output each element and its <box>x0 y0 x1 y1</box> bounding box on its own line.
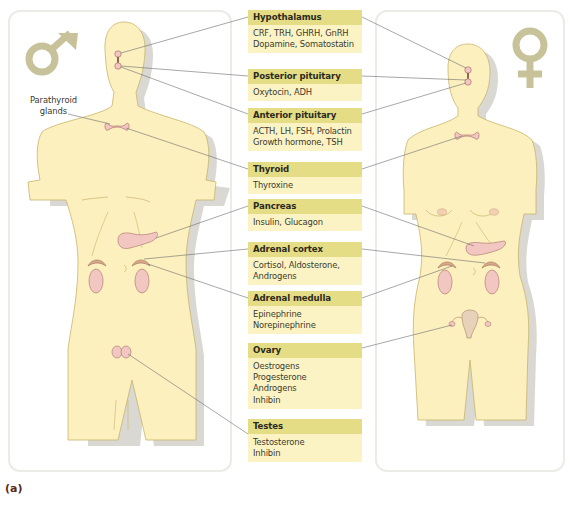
male-hypothalamus <box>115 51 121 57</box>
figure-tag: (a) <box>5 482 22 495</box>
label-adrenal-medulla: Adrenal medulla Epinephrine Norepinephri… <box>248 291 362 334</box>
hormone-text: Dopamine, Somatostatin <box>253 39 357 50</box>
label-title: Testes <box>248 419 362 434</box>
female-ovary-right <box>485 322 491 327</box>
parathyroid-label-line1: Parathyroid <box>30 95 77 106</box>
hormone-text: ACTH, LH, FSH, Prolactin <box>253 126 357 137</box>
hormone-text: Insulin, Glucagon <box>253 217 357 228</box>
hormone-text: Growth hormone, TSH <box>253 137 357 148</box>
label-title: Ovary <box>248 343 362 358</box>
hormone-text: Testosterone <box>253 437 357 448</box>
label-title: Hypothalamus <box>248 10 362 25</box>
female-kidney-right <box>485 270 499 294</box>
label-posterior-pituitary: Posterior pituitary Oxytocin, ADH <box>248 69 362 101</box>
female-symbol-icon <box>516 31 544 88</box>
hormone-text: Oxytocin, ADH <box>253 87 357 98</box>
hormone-text: Androgens <box>253 271 357 282</box>
male-figure <box>28 22 230 446</box>
hormone-text: Inhibin <box>253 395 357 406</box>
male-pituitary <box>115 63 121 69</box>
label-title: Posterior pituitary <box>248 69 362 84</box>
label-title: Anterior pituitary <box>248 108 362 123</box>
label-testes: Testes Testosterone Inhibin <box>248 419 362 462</box>
hormone-text: Thyroxine <box>253 180 357 191</box>
hormone-text: Norepinephrine <box>253 320 357 331</box>
label-ovary: Ovary Oestrogens Progesterone Androgens … <box>248 343 362 409</box>
label-anterior-pituitary: Anterior pituitary ACTH, LH, FSH, Prolac… <box>248 108 362 151</box>
label-adrenal-cortex: Adrenal cortex Cortisol, Aldosterone, An… <box>248 242 362 285</box>
male-testis-left <box>112 346 122 358</box>
label-title: Adrenal medulla <box>248 291 362 306</box>
hormone-text: Inhibin <box>253 448 357 459</box>
label-pancreas: Pancreas Insulin, Glucagon <box>248 199 362 231</box>
hormone-text: Cortisol, Aldosterone, <box>253 260 357 271</box>
female-kidney-left <box>438 270 452 294</box>
hormone-text: Androgens <box>253 383 357 394</box>
male-testis-right <box>121 346 131 358</box>
male-kidney-right <box>135 269 149 293</box>
hormone-text: Epinephrine <box>253 309 357 320</box>
male-kidney-left <box>89 269 103 293</box>
hormone-text: Progesterone <box>253 372 357 383</box>
label-title: Thyroid <box>248 162 362 177</box>
label-title: Pancreas <box>248 199 362 214</box>
hormone-text: Oestrogens <box>253 361 357 372</box>
parathyroid-label: Parathyroid glands <box>30 95 77 117</box>
hormone-text: CRF, TRH, GHRH, GnRH <box>253 28 357 39</box>
label-thyroid: Thyroid Thyroxine <box>248 162 362 194</box>
parathyroid-label-line2: glands <box>30 106 77 117</box>
label-hypothalamus: Hypothalamus CRF, TRH, GHRH, GnRH Dopami… <box>248 10 362 53</box>
label-title: Adrenal cortex <box>248 242 362 257</box>
male-symbol-icon <box>29 33 70 72</box>
